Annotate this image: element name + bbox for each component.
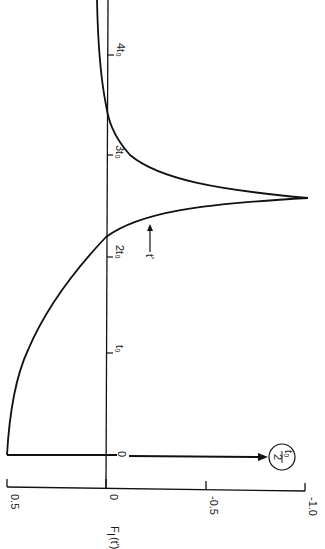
curve-before-cusp: [7, 198, 308, 455]
chart: 0.5 0 -0.5 -1.0 F I (t') t₀ 2t₀ 3t₀ 4t₀ …: [0, 0, 325, 549]
svg-text:I: I: [105, 533, 117, 536]
t-direction-label: t': [144, 254, 156, 259]
impulse-line-b: [129, 456, 262, 457]
t-tick-label-4: 4t₀: [115, 43, 127, 57]
f-axis: [7, 487, 305, 491]
f-tick-label-0: 0: [108, 494, 120, 500]
f-tick-label-neg0.5: -0.5: [208, 496, 220, 515]
impulse-zero-label: 0: [116, 451, 128, 457]
f-axis-title: F I (t'): [105, 526, 121, 549]
svg-text:2: 2: [272, 454, 284, 460]
svg-text:(t'): (t'): [109, 537, 121, 549]
impulse-weight-label: t₀ 2: [269, 444, 295, 470]
f-tick-label-neg1: -1.0: [307, 497, 319, 516]
impulse-arrowhead-icon: [258, 453, 268, 461]
curve-after-cusp: [97, 0, 308, 198]
t-tick-label-2: 2t₀: [114, 245, 126, 259]
t-axis: [106, 0, 108, 488]
t-direction-arrowhead-icon: [147, 224, 153, 231]
f-tick-label-0.5: 0.5: [9, 494, 21, 509]
t-tick-label-1: t₀: [114, 345, 126, 353]
svg-text:F: F: [109, 526, 121, 533]
